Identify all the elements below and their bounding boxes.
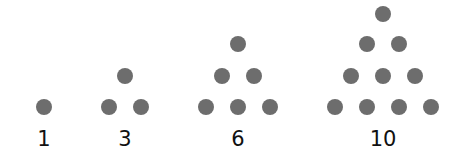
group-label: 1 bbox=[24, 127, 64, 151]
dot-icon bbox=[391, 36, 407, 52]
dot-icon bbox=[214, 68, 230, 84]
dot-icon bbox=[391, 99, 407, 115]
group-label: 10 bbox=[363, 127, 403, 151]
group-label: 6 bbox=[218, 127, 258, 151]
dot-icon bbox=[327, 99, 343, 115]
dot-icon bbox=[262, 99, 278, 115]
dot-icon bbox=[101, 99, 117, 115]
dot-icon bbox=[343, 68, 359, 84]
dot-icon bbox=[133, 99, 149, 115]
dot-icon bbox=[230, 36, 246, 52]
dot-icon bbox=[230, 99, 246, 115]
dot-icon bbox=[359, 36, 375, 52]
dot-icon bbox=[246, 68, 262, 84]
dot-icon bbox=[423, 99, 439, 115]
dot-icon bbox=[198, 99, 214, 115]
triangular-numbers-diagram: 13610 bbox=[0, 0, 468, 154]
dot-icon bbox=[36, 99, 52, 115]
dot-icon bbox=[359, 99, 375, 115]
dot-icon bbox=[407, 68, 423, 84]
group-label: 3 bbox=[105, 127, 145, 151]
dot-icon bbox=[375, 68, 391, 84]
dot-icon bbox=[375, 6, 391, 22]
dot-icon bbox=[117, 68, 133, 84]
